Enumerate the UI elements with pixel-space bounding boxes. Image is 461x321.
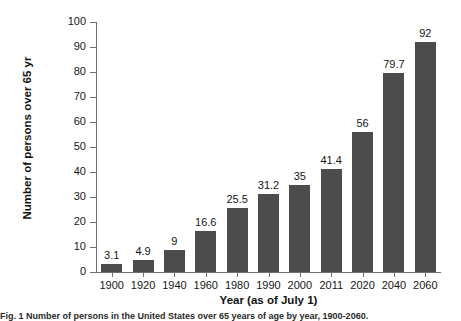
x-axis-tick — [112, 273, 113, 277]
x-axis-tick-label: 2060 — [403, 279, 447, 291]
bar — [415, 42, 436, 272]
plot-area: 3.14.9916.625.531.23541.45679.792 — [96, 22, 441, 272]
bar — [352, 132, 373, 272]
y-axis-tick — [90, 272, 96, 273]
y-axis-tick-label: 90 — [20, 41, 86, 52]
x-axis-tick — [269, 273, 270, 277]
x-axis-tick — [300, 273, 301, 277]
bar — [289, 185, 310, 273]
bar — [321, 169, 342, 273]
bar — [258, 194, 279, 272]
x-axis-tick — [143, 273, 144, 277]
bar-value-label: 92 — [399, 28, 451, 39]
figure: 0102030405060708090100 Number of persons… — [0, 0, 461, 321]
x-axis-tick — [174, 273, 175, 277]
x-axis-tick — [394, 273, 395, 277]
bar-value-label: 16.6 — [180, 217, 232, 228]
x-axis-tick — [206, 273, 207, 277]
bar-value-label: 4.9 — [117, 246, 169, 257]
y-axis-tick-label: 100 — [20, 16, 86, 27]
y-axis-tick-label-text: 90 — [22, 41, 86, 52]
y-axis-tick-label-text: 10 — [22, 241, 86, 252]
bar — [383, 73, 404, 272]
bar-value-label: 35 — [274, 171, 326, 182]
bar — [164, 250, 185, 273]
bar — [227, 208, 248, 272]
bar — [101, 264, 122, 272]
bar-value-label: 79.7 — [368, 59, 420, 70]
figure-caption: Fig. 1 Number of persons in the United S… — [0, 311, 461, 321]
x-axis-tick — [363, 273, 364, 277]
bar — [195, 231, 216, 273]
x-axis-tick — [237, 273, 238, 277]
y-axis-title: Number of persons over 65 yr — [21, 60, 34, 220]
bar-value-label: 56 — [337, 118, 389, 129]
bar — [133, 260, 154, 272]
y-axis-tick-label: 0 — [20, 266, 86, 277]
y-axis-tick-label-text: 0 — [22, 266, 86, 277]
y-axis-tick-label-text: 100 — [22, 16, 86, 27]
x-axis-tick — [331, 273, 332, 277]
x-axis-title: Year (as of July 1) — [96, 294, 441, 307]
y-axis-tick-label: 10 — [20, 241, 86, 252]
bar-value-label: 41.4 — [305, 155, 357, 166]
bar-value-label: 25.5 — [211, 194, 263, 205]
bar-value-label: 31.2 — [243, 180, 295, 191]
bar-value-label: 9 — [148, 236, 200, 247]
x-axis-tick — [425, 273, 426, 277]
